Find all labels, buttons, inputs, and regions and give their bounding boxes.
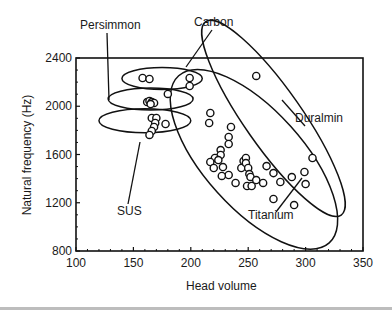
point-titanium-26 [263, 162, 270, 169]
annotation-carbon: Carbon [194, 15, 233, 29]
point-carbon-2 [186, 74, 193, 81]
x-tick-label-100: 100 [66, 256, 86, 270]
point-sus-5 [146, 131, 153, 138]
annotation-persimmon: Persimmon [80, 18, 141, 32]
point-carbon-3 [186, 82, 193, 89]
point-duralmin-0 [253, 72, 260, 79]
x-axis-title: Head volume [186, 279, 257, 293]
point-titanium-12 [225, 171, 232, 178]
point-carbon-4 [164, 90, 171, 97]
point-persimmon-4 [147, 100, 154, 107]
point-titanium-8 [215, 156, 222, 163]
annotation-sus: SUS [117, 204, 142, 218]
point-titanium-0 [207, 109, 214, 116]
x-tick-label-250: 250 [238, 256, 258, 270]
y-tick-label-1600: 1600 [45, 148, 72, 162]
y-tick-label-2400: 2400 [45, 51, 72, 65]
point-carbon-1 [146, 75, 153, 82]
annotation-duralmin: Duralmin [295, 111, 343, 125]
point-duralmin-1 [309, 154, 316, 161]
point-titanium-25 [260, 179, 267, 186]
point-carbon-0 [139, 74, 146, 81]
point-sus-6 [162, 120, 169, 127]
y-axis-title: Natural frequency (Hz) [20, 95, 34, 216]
y-tick-label-800: 800 [52, 244, 72, 258]
point-titanium-2 [227, 123, 234, 130]
point-titanium-3 [225, 133, 232, 140]
point-titanium-31 [301, 168, 308, 175]
point-titanium-29 [270, 195, 277, 202]
y-tick-label-2000: 2000 [45, 99, 72, 113]
point-titanium-13 [218, 172, 225, 179]
point-titanium-30 [288, 173, 295, 180]
point-titanium-1 [206, 119, 213, 126]
point-titanium-28 [277, 178, 284, 185]
scatter-chart: 1001502002503003508001200160020002400 Pe… [0, 0, 392, 310]
point-titanium-27 [270, 169, 277, 176]
y-tick-label-1200: 1200 [45, 196, 72, 210]
point-titanium-11 [219, 163, 226, 170]
x-tick-label-350: 350 [353, 256, 373, 270]
annotation-titanium: Titanium [248, 208, 294, 222]
x-tick-label-150: 150 [123, 256, 143, 270]
leader-line-persimmon [107, 33, 109, 100]
leader-line-sus [128, 142, 140, 204]
point-titanium-32 [302, 180, 309, 187]
point-titanium-10 [210, 164, 217, 171]
point-titanium-14 [232, 179, 239, 186]
x-tick-label-300: 300 [296, 256, 316, 270]
point-titanium-4 [225, 140, 232, 147]
point-titanium-24 [253, 176, 260, 183]
x-tick-label-200: 200 [181, 256, 201, 270]
